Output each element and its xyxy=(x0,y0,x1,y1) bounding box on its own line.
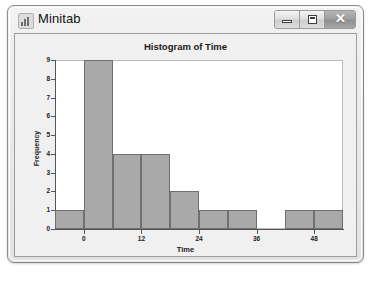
x-axis-tick xyxy=(314,230,315,234)
y-axis-tick-label: 9 xyxy=(30,57,50,64)
y-axis-tick xyxy=(51,191,55,192)
minitab-window: Minitab ✕ Histogram of Time 0123456789 F… xyxy=(7,5,364,263)
histogram-bar xyxy=(228,210,257,229)
x-axis-tick xyxy=(257,230,258,234)
y-axis-tick-label: 7 xyxy=(30,95,50,102)
maximize-button[interactable] xyxy=(300,11,325,28)
x-axis-tick-label: 12 xyxy=(126,236,156,243)
histogram-bar xyxy=(314,210,343,229)
y-axis-tick xyxy=(51,79,55,80)
window-title: Minitab xyxy=(38,11,81,26)
bar-chart-icon xyxy=(18,13,34,29)
x-axis-tick xyxy=(199,230,200,234)
y-axis-tick xyxy=(51,173,55,174)
histogram-bar xyxy=(55,210,84,229)
y-axis-line xyxy=(55,60,56,230)
close-icon: ✕ xyxy=(325,11,355,28)
x-axis-tick-label: 24 xyxy=(184,236,214,243)
histogram-bar xyxy=(141,154,170,229)
histogram-bar xyxy=(113,154,142,229)
y-axis-tick-label: 1 xyxy=(30,207,50,214)
chart-title: Histogram of Time xyxy=(15,41,356,52)
window-titlebar[interactable]: Minitab ✕ xyxy=(8,6,363,34)
y-axis-tick xyxy=(51,60,55,61)
graph-client-area: Histogram of Time 0123456789 Frequency 0… xyxy=(14,33,357,257)
x-axis-tick xyxy=(141,230,142,234)
maximize-icon xyxy=(308,15,317,24)
y-axis-tick-label: 8 xyxy=(30,76,50,83)
y-axis-tick xyxy=(51,135,55,136)
histogram-bar xyxy=(199,210,228,229)
x-axis-title: Time xyxy=(15,245,356,254)
y-axis-tick xyxy=(51,116,55,117)
histogram-bar xyxy=(285,210,314,229)
y-axis-tick-label: 2 xyxy=(30,188,50,195)
x-axis-tick-label: 48 xyxy=(299,236,329,243)
y-axis-tick xyxy=(51,98,55,99)
x-axis-tick-label: 36 xyxy=(242,236,272,243)
close-button[interactable]: ✕ xyxy=(325,11,355,28)
x-axis-tick xyxy=(84,230,85,234)
y-axis-tick-label: 0 xyxy=(30,226,50,233)
minimize-button[interactable] xyxy=(275,11,300,28)
y-axis-title: Frequency xyxy=(33,119,40,179)
x-axis-tick-label: 0 xyxy=(69,236,99,243)
histogram-bar xyxy=(170,191,199,229)
minimize-icon xyxy=(282,20,292,23)
window-controls: ✕ xyxy=(274,10,356,29)
y-axis-tick xyxy=(51,154,55,155)
histogram-bar xyxy=(84,60,113,229)
